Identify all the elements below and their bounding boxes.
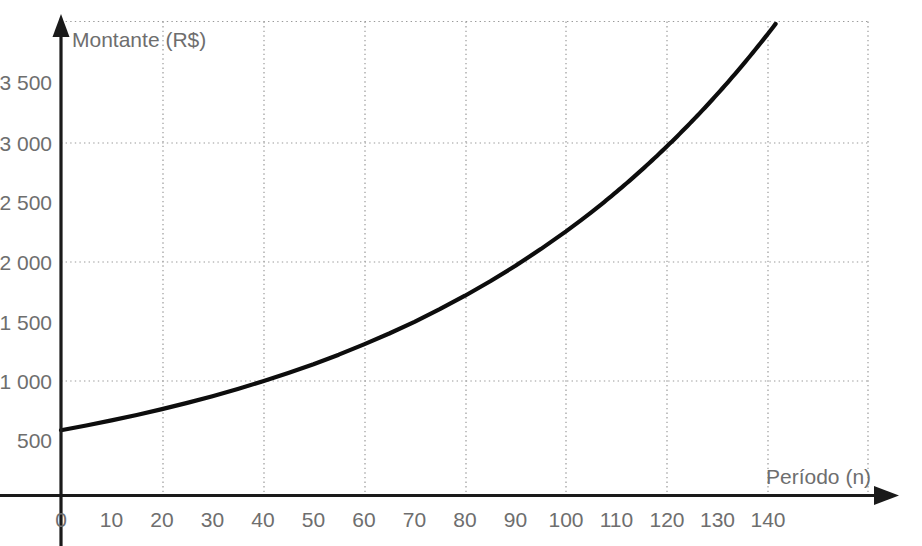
x-tick-label-30: 30 [201,508,224,531]
y-axis-title: Montante (R$) [72,28,206,51]
x-axis-arrowhead-icon [874,486,899,505]
x-tick-label-140: 140 [750,508,785,531]
x-tick-label-0: 0 [55,508,67,531]
y-tick-label-2500: 2 500 [0,191,52,214]
chart-page: Montante (R$) Período (n) 3 500 3 000 2 … [0,0,922,546]
x-tick-label-120: 120 [649,508,684,531]
x-tick-labels-group: 0102030405060708090100110120130140 [55,508,785,531]
y-tick-labels-group: 3 500 3 000 2 500 2 000 1 500 1 000 500 [0,71,52,452]
y-tick-label-1000: 1 000 [0,370,52,393]
x-tick-label-90: 90 [504,508,527,531]
x-tick-label-10: 10 [100,508,123,531]
y-tick-label-2000: 2 000 [0,251,52,274]
x-tick-label-80: 80 [453,508,476,531]
y-tick-label-3500: 3 500 [0,71,52,94]
axes-group [0,14,899,546]
montante-periodo-chart: Montante (R$) Período (n) 3 500 3 000 2 … [0,0,922,546]
y-tick-label-1500: 1 500 [0,311,52,334]
x-tick-label-70: 70 [403,508,426,531]
exponential-growth-curve [61,24,776,430]
x-tick-label-50: 50 [302,508,325,531]
x-tick-label-130: 130 [700,508,735,531]
x-tick-label-40: 40 [251,508,274,531]
x-tick-label-100: 100 [548,508,583,531]
y-tick-label-500: 500 [17,429,52,452]
gridlines-group [61,22,868,496]
x-tick-label-110: 110 [600,508,633,531]
y-axis-arrowhead-icon [53,14,70,37]
x-tick-label-20: 20 [150,508,173,531]
y-tick-label-3000: 3 000 [0,132,52,155]
x-axis-title: Período (n) [766,465,871,488]
x-tick-label-60: 60 [352,508,375,531]
